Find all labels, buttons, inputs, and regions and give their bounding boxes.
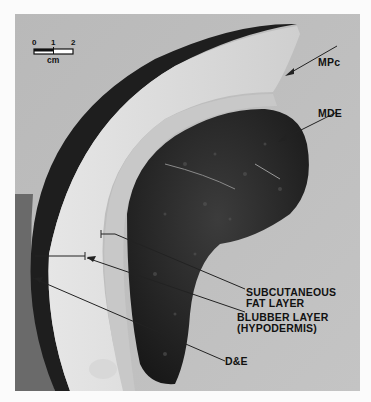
label-blubber-layer: BLUBBER LAYER (HYPODERMIS): [237, 312, 328, 334]
label-subcutaneous-fat-layer: SUBCUTANEOUS FAT LAYER: [246, 287, 336, 309]
scale-tick-0: 0: [32, 38, 36, 47]
label-mpc: MPc: [318, 57, 340, 68]
scale-unit: cm: [47, 55, 59, 65]
label-blubber-line2: (HYPODERMIS): [237, 323, 328, 334]
scale-tick-2: 2: [71, 38, 75, 47]
fat-lump: [89, 359, 117, 379]
specimen-photograph: 0 1 2 cm MPc MDE SUBCUTANEOUS FAT LAYER …: [15, 14, 360, 391]
label-de: D&E: [225, 356, 248, 367]
label-mde: MDE: [318, 108, 342, 119]
label-subcutaneous-line2: FAT LAYER: [246, 298, 336, 309]
specimen-illustration: [15, 14, 360, 391]
scale-tick-1: 1: [51, 38, 55, 47]
